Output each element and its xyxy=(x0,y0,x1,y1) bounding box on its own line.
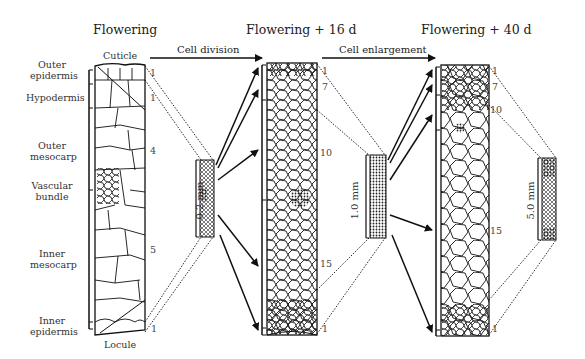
stage3-section xyxy=(436,65,489,336)
expansion-arrows-1 xyxy=(216,68,258,330)
scale-box-0-2mm xyxy=(196,160,214,237)
stage1-section xyxy=(89,64,145,335)
scale-box-5-0mm xyxy=(538,158,556,240)
stage2-section xyxy=(262,63,317,335)
tissue-diagram xyxy=(0,0,585,359)
expansion-arrows-2 xyxy=(388,70,432,332)
scale-box-1-0mm xyxy=(366,155,386,238)
